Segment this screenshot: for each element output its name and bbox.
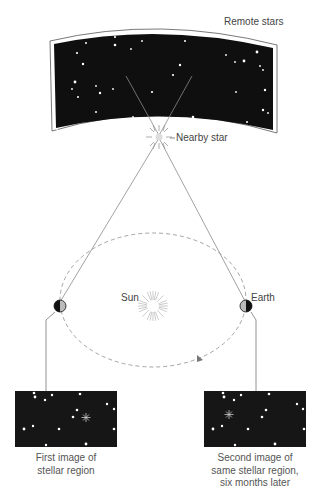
first-image-caption: First image of stellar region: [6, 452, 126, 477]
caption-line: six months later: [195, 477, 315, 490]
remote-star-field: [50, 29, 277, 133]
sun-icon: [138, 291, 168, 321]
earth-icon-left: [54, 300, 66, 312]
caption-line: First image of: [6, 452, 126, 465]
caption-line: same stellar region,: [195, 465, 315, 478]
nearby-star-icon: [146, 125, 172, 149]
parallax-diagram: [0, 0, 320, 497]
caption-line: Second image of: [195, 452, 315, 465]
nearby-star-label: Nearby star: [176, 132, 228, 144]
earth-label: Earth: [251, 292, 275, 304]
caption-line: stellar region: [6, 465, 126, 478]
remote-stars-label: Remote stars: [224, 16, 283, 28]
connector-lines: [46, 312, 256, 391]
second-image-panel: [204, 391, 306, 447]
sun-label: Sun: [121, 292, 139, 304]
orbit-direction-arrow: [197, 355, 203, 362]
first-image-panel: [15, 391, 117, 447]
second-image-caption: Second image of same stellar region, six…: [195, 452, 315, 490]
